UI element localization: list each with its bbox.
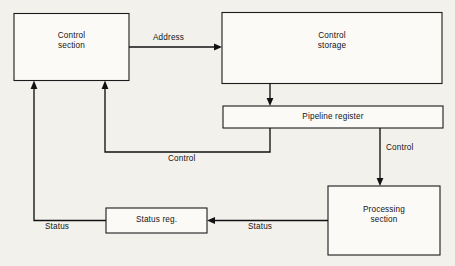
edge-address-arrowhead [214,44,222,51]
node-processing-section[interactable] [328,186,440,255]
edge-status-to-control-arrowhead [31,81,38,90]
block-diagram: Control section Control storage Pipeline… [0,0,455,266]
edge-status-to-control-label: Status [45,222,69,232]
edge-control-feedback-label: Control [168,154,195,164]
edge-status-to-register-arrowhead [207,217,215,224]
node-status-register[interactable] [106,208,207,233]
edge-address-label: Address [153,33,184,43]
edge-storage-to-pipeline-arrowhead [267,98,274,106]
edge-status-to-register-label: Status [248,222,272,232]
node-control-storage[interactable] [222,13,442,84]
edge-control-processing-arrowhead [377,178,384,186]
edge-control-feedback-arrowhead [102,81,109,90]
node-control-section[interactable] [14,14,129,81]
edge-status-to-control-line [34,87,106,221]
edge-control-processing-label: Control [386,143,413,153]
node-pipeline-register[interactable] [223,106,443,128]
